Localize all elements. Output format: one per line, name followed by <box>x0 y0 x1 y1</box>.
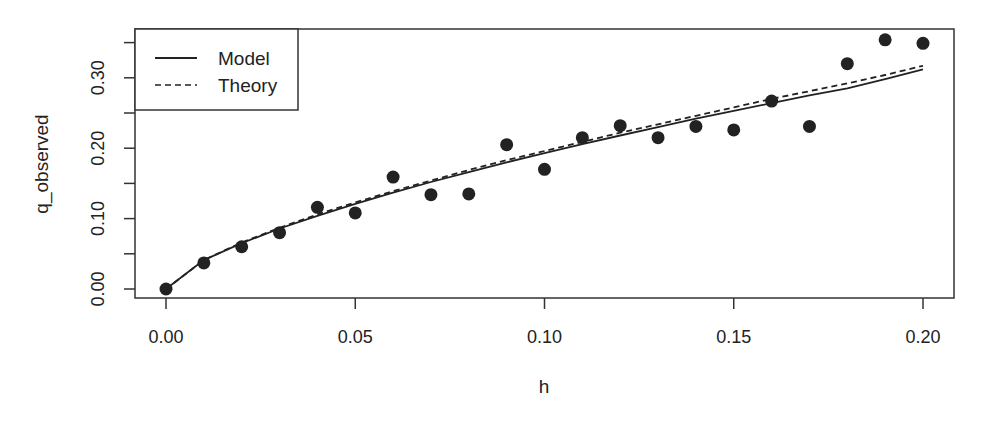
chart-canvas: 0.000.050.100.150.20 0.000.100.200.30 h … <box>0 0 984 427</box>
y-tick-label: 0.00 <box>88 271 108 306</box>
legend-label-model: Model <box>218 48 270 69</box>
x-tick-label: 0.10 <box>527 327 562 347</box>
y-tick-label: 0.20 <box>88 131 108 166</box>
data-point <box>727 123 740 136</box>
data-point <box>614 119 627 132</box>
data-point <box>160 283 173 296</box>
y-axis: 0.000.100.200.30 <box>88 43 135 307</box>
data-point <box>462 187 475 200</box>
data-point <box>841 57 854 70</box>
data-point <box>197 256 210 269</box>
data-point <box>349 206 362 219</box>
x-axis: 0.000.050.100.150.20 <box>148 298 940 347</box>
y-tick-label: 0.30 <box>88 60 108 95</box>
legend-box <box>135 29 298 110</box>
data-point <box>917 37 930 50</box>
x-tick-label: 0.05 <box>338 327 373 347</box>
legend-label-theory: Theory <box>218 75 278 96</box>
data-point <box>424 188 437 201</box>
y-axis-label: q_observed <box>31 114 53 213</box>
data-point <box>576 131 589 144</box>
data-point <box>500 138 513 151</box>
y-tick-label: 0.10 <box>88 201 108 236</box>
data-point <box>235 240 248 253</box>
x-tick-label: 0.00 <box>148 327 183 347</box>
data-point <box>689 120 702 133</box>
data-point <box>311 201 324 214</box>
data-point <box>879 33 892 46</box>
data-point <box>387 171 400 184</box>
x-tick-label: 0.15 <box>716 327 751 347</box>
legend: Model Theory <box>135 29 298 110</box>
x-tick-label: 0.20 <box>905 327 940 347</box>
x-axis-label: h <box>539 376 550 397</box>
data-point <box>803 120 816 133</box>
data-point <box>652 131 665 144</box>
data-point <box>538 163 551 176</box>
data-point <box>765 95 778 108</box>
data-point <box>273 226 286 239</box>
